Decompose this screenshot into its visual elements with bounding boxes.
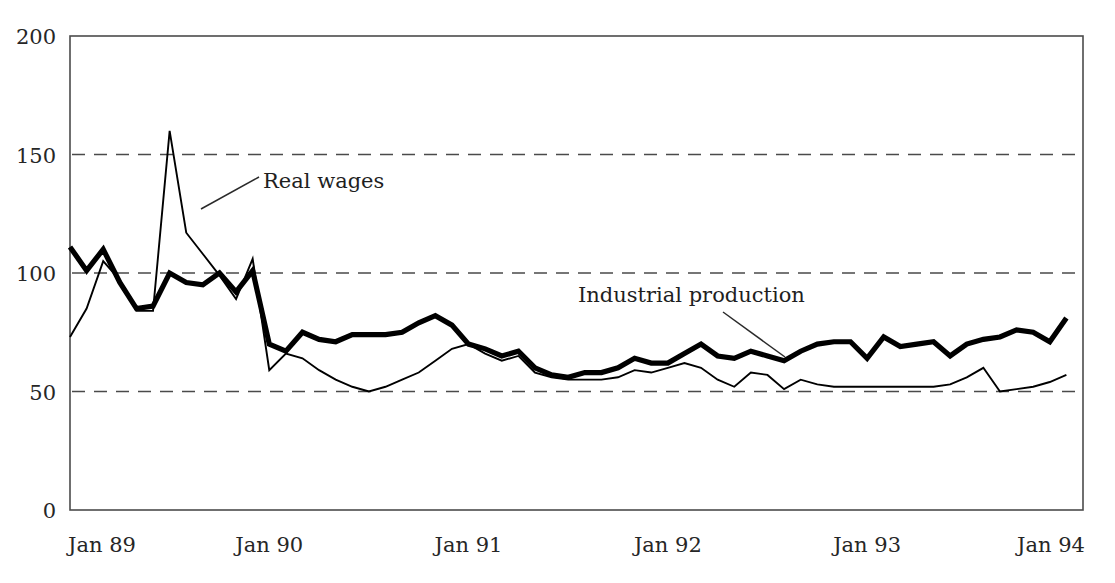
annotation-real-wages: Real wages bbox=[263, 169, 384, 193]
x-axis-tick-label: Jan 91 bbox=[433, 533, 503, 557]
x-axis-tick-label: Jan 90 bbox=[233, 533, 303, 557]
line-chart-canvas: 200150100500Jan 89Jan 90Jan 91Jan 92Jan … bbox=[0, 0, 1115, 583]
series-line-industrial-production bbox=[70, 247, 1066, 377]
annotation-industrial-production: Industrial production bbox=[578, 283, 805, 307]
x-axis-tick-label: Jan 92 bbox=[632, 533, 702, 557]
y-axis-tick-label: 50 bbox=[29, 381, 56, 405]
y-axis-tick-label: 0 bbox=[43, 499, 56, 523]
x-axis-tick-label: Jan 94 bbox=[1015, 533, 1085, 557]
y-axis-tick-label: 100 bbox=[16, 262, 56, 286]
chart-figure: 200150100500Jan 89Jan 90Jan 91Jan 92Jan … bbox=[0, 0, 1115, 583]
leader-line-real-wages bbox=[201, 177, 259, 209]
x-axis-tick-label: Jan 93 bbox=[831, 533, 901, 557]
y-axis-tick-label: 200 bbox=[16, 25, 56, 49]
x-axis-tick-label: Jan 89 bbox=[66, 533, 136, 557]
series-line-real-wages bbox=[70, 131, 1066, 392]
y-axis-tick-label: 150 bbox=[16, 144, 56, 168]
